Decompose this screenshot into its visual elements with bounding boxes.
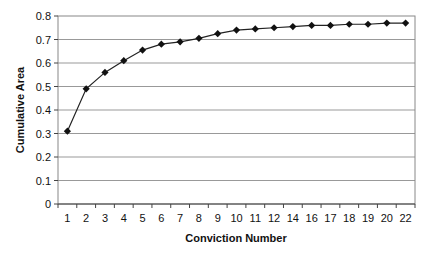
x-tick-label: 18 — [343, 212, 355, 224]
x-tick-label: 4 — [121, 212, 127, 224]
diamond-marker — [158, 41, 165, 48]
y-axis-title: Cumulative Area — [14, 66, 26, 153]
diamond-marker — [214, 30, 221, 37]
x-tick-label: 8 — [196, 212, 202, 224]
x-tick-label: 14 — [287, 212, 299, 224]
diamond-marker — [346, 21, 353, 28]
diamond-marker — [139, 46, 146, 53]
y-tick-label: 0.6 — [36, 57, 51, 69]
diamond-marker — [327, 22, 334, 29]
x-tick-label: 17 — [324, 212, 336, 224]
x-tick-label: 2 — [83, 212, 89, 224]
y-axis: 00.10.20.30.40.50.60.70.8 — [36, 10, 58, 210]
x-tick-label: 12 — [268, 212, 280, 224]
gridlines — [58, 40, 415, 181]
diamond-marker — [308, 22, 315, 29]
x-tick-label: 11 — [250, 212, 261, 224]
x-tick-label: 3 — [102, 212, 108, 224]
y-tick-label: 0.4 — [36, 104, 51, 116]
y-tick-label: 0.3 — [36, 128, 51, 140]
diamond-marker — [233, 27, 240, 34]
x-tick-label: 7 — [177, 212, 183, 224]
y-tick-label: 0 — [45, 198, 51, 210]
y-tick-label: 0.2 — [36, 151, 51, 163]
x-tick-label: 19 — [362, 212, 374, 224]
diamond-marker — [383, 19, 390, 26]
x-tick-label: 5 — [139, 212, 145, 224]
x-tick-label: 9 — [215, 212, 221, 224]
y-tick-label: 0.1 — [36, 175, 51, 187]
x-tick-label: 1 — [64, 212, 70, 224]
x-tick-label: 10 — [230, 212, 242, 224]
x-tick-label: 6 — [158, 212, 164, 224]
data-markers — [64, 19, 409, 134]
diamond-marker — [195, 35, 202, 42]
x-axis-title: Conviction Number — [185, 232, 287, 244]
y-tick-label: 0.7 — [36, 34, 51, 46]
diamond-marker — [270, 24, 277, 31]
diamond-marker — [289, 23, 296, 30]
y-tick-label: 0.5 — [36, 81, 51, 93]
diamond-marker — [364, 21, 371, 28]
x-tick-label: 22 — [399, 212, 411, 224]
diamond-marker — [402, 19, 409, 26]
y-tick-label: 0.8 — [36, 10, 51, 22]
line-chart: 00.10.20.30.40.50.60.70.8 12345678910111… — [0, 0, 430, 256]
x-tick-label: 20 — [381, 212, 393, 224]
x-axis: 12345678910111214161718192022 — [58, 204, 415, 224]
diamond-marker — [252, 25, 259, 32]
x-tick-label: 16 — [306, 212, 318, 224]
